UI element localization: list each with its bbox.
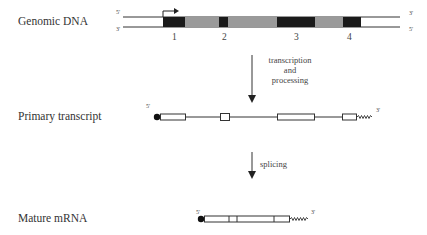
mature-mrna-label: Mature mRNA <box>18 212 87 224</box>
mature-5-prime: 5' <box>196 209 200 215</box>
step1-line2: and <box>262 65 318 75</box>
cap-icon <box>198 216 204 222</box>
primary-transcript-label: Primary transcript <box>18 110 101 122</box>
exon-1 <box>163 17 185 27</box>
exon-number-2: 2 <box>222 32 227 42</box>
exon-number-1: 1 <box>172 32 177 42</box>
down-arrow-icon <box>248 55 256 103</box>
primary-5-prime: 5' <box>146 103 150 109</box>
exon-4 <box>343 17 361 27</box>
intron-3 <box>315 17 343 27</box>
poly-a-tail-icon <box>357 116 372 119</box>
step-transcription-processing: transcription and processing <box>262 55 318 85</box>
step1-line1: transcription <box>262 55 318 65</box>
step-splicing: splicing <box>260 159 287 169</box>
primary-transcript-graphic <box>154 114 372 121</box>
strand-top-3-prime: 3' <box>409 10 413 16</box>
intron-2 <box>228 17 277 27</box>
cap-icon <box>154 114 160 120</box>
poly-a-tail-icon <box>290 218 308 221</box>
intron-1 <box>185 17 219 27</box>
genomic-dna-strands <box>123 17 400 27</box>
mature-mrna-graphic <box>198 216 308 222</box>
exon-3 <box>277 17 315 27</box>
genomic-dna-label: Genomic DNA <box>18 15 88 27</box>
exon-number-4: 4 <box>347 32 352 42</box>
step1-line3: processing <box>262 75 318 85</box>
exon-number-3: 3 <box>294 32 299 42</box>
exon-2 <box>219 17 228 27</box>
down-arrow-icon <box>248 152 256 179</box>
transcription-start-arrow-icon <box>163 8 179 17</box>
mature-3-prime: 3' <box>311 209 315 215</box>
strand-top-5-prime: 5' <box>116 9 120 15</box>
primary-3-prime: 3' <box>376 107 380 113</box>
strand-bottom-3-prime: 3' <box>116 26 120 32</box>
strand-bottom-5-prime: 5' <box>409 26 413 32</box>
